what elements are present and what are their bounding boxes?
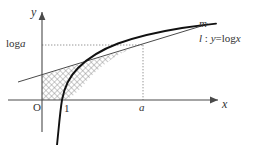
x-axis-arrow-icon [210, 97, 218, 104]
log-a-arg: a [20, 37, 26, 49]
figure-canvas [0, 0, 265, 145]
origin-label: O [33, 102, 41, 113]
curve-separator: : [202, 32, 211, 44]
x-axis-label: x [222, 98, 227, 110]
shaded-region [42, 45, 143, 100]
tangent-line-label: m [199, 18, 207, 29]
math-figure: y x O 1 a loga m l : y=logx [0, 0, 265, 145]
curve-eq-var: x [236, 32, 241, 44]
curve-label: l : y=logx [199, 33, 241, 44]
log-a-prefix: log [6, 37, 20, 49]
curve-eq-rhs: =log [216, 32, 236, 44]
x-tick-label-a: a [139, 102, 145, 113]
y-axis-label: y [31, 6, 36, 18]
y-tick-label-log-a: loga [6, 38, 26, 49]
y-axis-arrow-icon [39, 12, 46, 20]
x-tick-label-one: 1 [64, 103, 70, 114]
